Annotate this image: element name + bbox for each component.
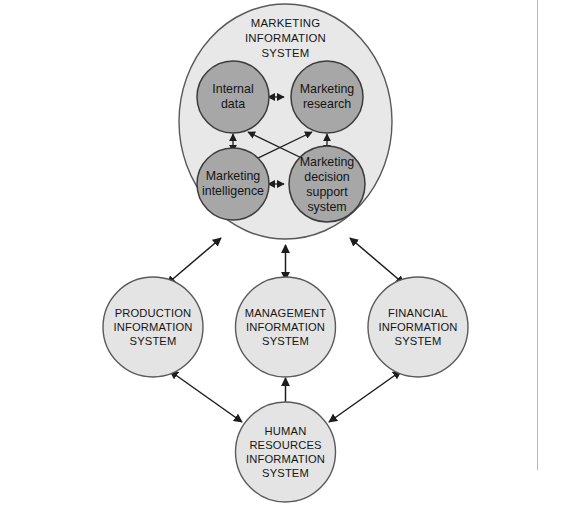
- human-resources-label-line-1: HUMAN: [265, 425, 307, 437]
- human-resources-label-line-3: INFORMATION: [246, 453, 325, 465]
- mis-title-line-2: INFORMATION: [245, 32, 326, 44]
- connector-financial-to-human-resources: [329, 371, 401, 422]
- marketing-intelligence-label-line-2: intelligence: [202, 184, 264, 198]
- decision-support-label-line-2: decision: [304, 170, 350, 184]
- management-label-line-1: MANAGEMENT: [245, 307, 327, 319]
- marketing-research-label-line-1: Marketing: [300, 82, 355, 96]
- node-marketing-intelligence[interactable]: Marketing intelligence: [197, 148, 269, 220]
- connector-mis-to-production: [167, 238, 221, 284]
- marketing-information-system-diagram: MARKETING INFORMATION SYSTEM Internal da…: [0, 0, 563, 515]
- node-financial-information-system[interactable]: FINANCIAL INFORMATION SYSTEM: [368, 277, 468, 377]
- decision-support-label-line-4: system: [307, 200, 346, 214]
- decision-support-label-line-1: Marketing: [300, 155, 355, 169]
- node-marketing-research[interactable]: Marketing research: [291, 61, 363, 133]
- decision-support-label-line-3: support: [306, 185, 348, 199]
- node-internal-data[interactable]: Internal data: [197, 61, 269, 133]
- human-resources-label-line-4: SYSTEM: [262, 467, 309, 479]
- marketing-information-system-group: MARKETING INFORMATION SYSTEM Internal da…: [179, 4, 392, 239]
- production-label-line-2: INFORMATION: [113, 321, 192, 333]
- marketing-intelligence-label-line-1: Marketing: [206, 169, 261, 183]
- production-label-line-3: SYSTEM: [130, 335, 177, 347]
- mis-title-line-1: MARKETING: [251, 17, 321, 29]
- connector-mis-to-financial: [350, 238, 404, 284]
- marketing-research-label-line-2: research: [303, 97, 351, 111]
- financial-label-line-3: SYSTEM: [395, 335, 442, 347]
- management-label-line-3: SYSTEM: [262, 335, 309, 347]
- connector-production-to-human-resources: [170, 371, 242, 422]
- diagram-canvas: MARKETING INFORMATION SYSTEM Internal da…: [0, 0, 563, 515]
- financial-label-line-2: INFORMATION: [378, 321, 457, 333]
- human-resources-label-line-2: RESOURCES: [249, 439, 321, 451]
- node-production-information-system[interactable]: PRODUCTION INFORMATION SYSTEM: [103, 277, 203, 377]
- node-management-information-system[interactable]: MANAGEMENT INFORMATION SYSTEM: [236, 277, 336, 377]
- mis-title-line-3: SYSTEM: [261, 47, 309, 59]
- internal-data-label-line-2: data: [221, 97, 245, 111]
- financial-label-line-1: FINANCIAL: [388, 307, 448, 319]
- management-label-line-2: INFORMATION: [246, 321, 325, 333]
- internal-data-label-line-1: Internal: [212, 82, 253, 96]
- node-human-resources-information-system[interactable]: HUMAN RESOURCES INFORMATION SYSTEM: [236, 402, 336, 502]
- production-label-line-1: PRODUCTION: [115, 307, 192, 319]
- node-marketing-decision-support-system[interactable]: Marketing decision support system: [289, 146, 365, 222]
